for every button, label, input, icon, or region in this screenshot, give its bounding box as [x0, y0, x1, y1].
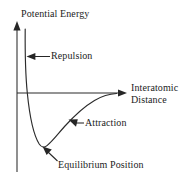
equilibrium-pointer	[43, 147, 58, 161]
x-axis-label: Interatomic Distance	[131, 82, 178, 105]
y-axis	[13, 21, 20, 172]
y-axis-arrowhead-icon	[13, 21, 20, 31]
y-axis-label: Potential Energy	[21, 8, 89, 20]
attraction-label: Attraction	[85, 117, 127, 129]
equilibrium-pointer-line	[48, 152, 58, 161]
repulsion-pointer	[27, 53, 51, 60]
curve-path	[25, 29, 116, 147]
potential-energy-curve	[25, 29, 116, 147]
attraction-arrowhead-icon	[69, 119, 78, 127]
equilibrium-position-label: Equilibrium Position	[58, 159, 144, 171]
potential-energy-diagram: Potential Energy Repulsion Attraction Eq…	[0, 0, 182, 180]
x-axis-label-line2: Distance	[131, 94, 178, 106]
x-axis	[17, 89, 127, 96]
attraction-pointer	[69, 119, 85, 127]
repulsion-label: Repulsion	[51, 50, 92, 62]
repulsion-arrowhead-icon	[27, 53, 36, 60]
x-axis-arrowhead-icon	[118, 89, 127, 96]
x-axis-label-line1: Interatomic	[131, 82, 178, 93]
